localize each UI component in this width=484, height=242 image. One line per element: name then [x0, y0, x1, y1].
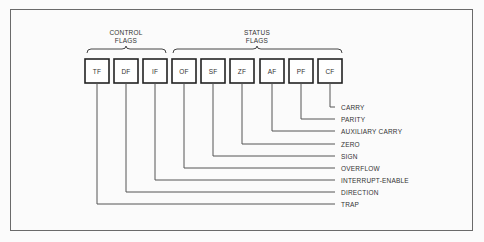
flag-abbr-cf: CF: [325, 68, 334, 75]
flag-label-overflow: OVERFLOW: [341, 165, 380, 172]
status-flags-heading-line2: FLAGS: [246, 37, 269, 44]
flag-abbr-zf: ZF: [238, 68, 246, 75]
flag-abbr-if: IF: [152, 68, 158, 75]
leader-line-df: [126, 83, 335, 192]
leader-line-of: [184, 83, 335, 168]
status-flags-heading-line1: STATUS: [244, 29, 270, 36]
status-flags-bracket: [173, 46, 342, 53]
flag-label-parity: PARITY: [341, 116, 366, 123]
flag-label-auxiliary-carry: AUXILIARY CARRY: [341, 128, 403, 135]
control-flags-bracket: [87, 46, 166, 53]
flag-abbr-sf: SF: [209, 68, 218, 75]
flag-abbr-pf: PF: [297, 68, 306, 75]
flag-label-trap: TRAP: [341, 201, 359, 208]
flag-label-zero: ZERO: [341, 141, 360, 148]
flag-abbr-tf: TF: [93, 68, 101, 75]
leader-line-zf: [242, 83, 335, 144]
control-flags-heading-line2: FLAGS: [115, 37, 138, 44]
flags-diagram: CONTROL FLAGS STATUS FLAGS TF DF IF OF S…: [0, 0, 484, 242]
flag-abbr-af: AF: [268, 68, 277, 75]
flag-label-interrupt-enable: INTERRUPT-ENABLE: [341, 177, 409, 184]
flag-label-direction: DIRECTION: [341, 189, 379, 196]
control-flags-heading-line1: CONTROL: [109, 29, 142, 36]
flag-abbr-df: DF: [121, 68, 130, 75]
flag-abbr-of: OF: [179, 68, 188, 75]
leader-line-af: [272, 83, 335, 131]
leader-line-cf: [330, 83, 335, 107]
flag-label-sign: SIGN: [341, 153, 358, 160]
flag-label-carry: CARRY: [341, 104, 365, 111]
